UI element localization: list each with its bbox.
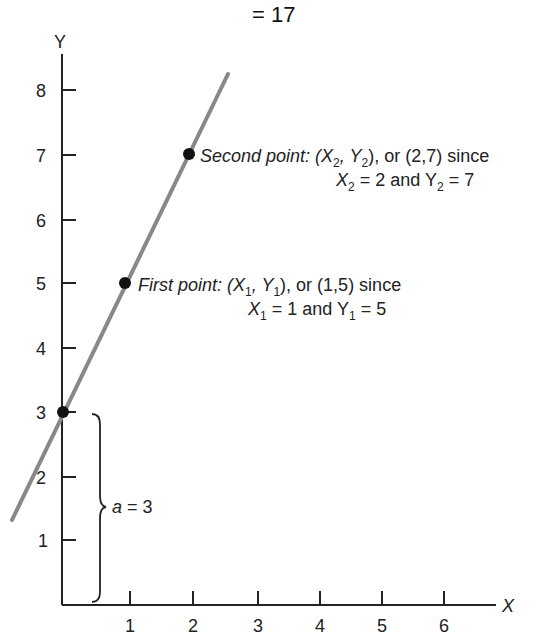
intercept-annotation: a = 3 — [112, 497, 153, 517]
svg-text:1: 1 — [125, 616, 135, 636]
x-tick-labels: 1 2 3 4 5 6 — [125, 616, 449, 636]
svg-text:4: 4 — [36, 339, 46, 359]
brace-icon — [92, 414, 106, 602]
svg-text:5: 5 — [36, 274, 46, 294]
svg-text:3: 3 — [253, 616, 263, 636]
point-intercept — [57, 406, 69, 418]
second-point-annotation-line2: X2 = 2 and Y2 = 7 — [335, 170, 474, 194]
y-axis-label: Y — [54, 32, 66, 52]
chart: Y X 8 7 6 5 4 3 2 1 1 2 3 4 5 6 — [0, 0, 536, 637]
first-point-annotation-line1: First point: (X1, Y1), or (1,5) since — [138, 275, 401, 299]
regression-line — [12, 74, 228, 520]
point-second — [183, 148, 195, 160]
svg-text:1: 1 — [38, 531, 48, 551]
svg-text:5: 5 — [377, 616, 387, 636]
svg-text:3: 3 — [36, 403, 46, 423]
svg-text:4: 4 — [315, 616, 325, 636]
second-point-annotation-line1: Second point: (X2, Y2), or (2,7) since — [200, 146, 489, 170]
svg-text:2: 2 — [188, 616, 198, 636]
y-tick-labels: 8 7 6 5 4 3 2 1 — [36, 81, 48, 551]
svg-text:6: 6 — [36, 211, 46, 231]
x-axis-label: X — [501, 596, 515, 616]
point-first — [119, 277, 131, 289]
first-point-annotation-line2: X1 = 1 and Y1 = 5 — [247, 299, 386, 323]
svg-text:8: 8 — [36, 81, 46, 101]
y-ticks — [62, 90, 76, 540]
svg-text:6: 6 — [439, 616, 449, 636]
x-ticks — [130, 591, 444, 605]
svg-text:7: 7 — [36, 146, 46, 166]
